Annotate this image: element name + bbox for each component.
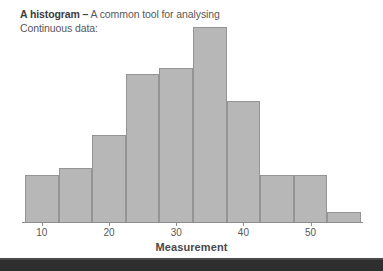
histogram-bar (193, 27, 227, 222)
x-axis-tick (176, 222, 177, 226)
histogram-bar (25, 175, 59, 222)
x-axis-tick-label: 10 (22, 227, 62, 238)
x-axis-tick-label: 20 (89, 227, 129, 238)
histogram-plot: 1020304050 Measurement (0, 0, 383, 246)
x-axis-line (22, 222, 363, 223)
histogram-bar (327, 212, 361, 222)
histogram-bar (92, 135, 126, 222)
x-axis-tick (311, 222, 312, 226)
x-axis-tick (243, 222, 244, 226)
histogram-screenshot: A histogram – A common tool for analysin… (0, 0, 383, 271)
histogram-bar (59, 168, 93, 222)
x-axis-tick-label: 30 (156, 227, 196, 238)
histogram-bar (126, 74, 160, 222)
x-axis-tick-label: 50 (291, 227, 331, 238)
histogram-bar (227, 101, 261, 222)
footer-band (0, 258, 383, 271)
footer-band-highlight (0, 258, 383, 260)
histogram-bar (260, 175, 294, 222)
histogram-bar (294, 175, 328, 222)
x-axis-title: Measurement (0, 241, 383, 253)
x-axis-tick (42, 222, 43, 226)
x-axis-tick-label: 40 (223, 227, 263, 238)
x-axis-tick (109, 222, 110, 226)
histogram-bar (159, 68, 193, 222)
